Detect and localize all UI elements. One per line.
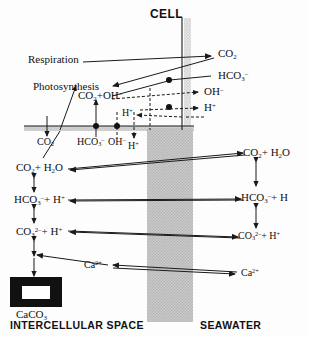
calcium-left: Ca2+ (84, 260, 102, 270)
inner-h-plus: H+ (122, 108, 133, 118)
species-base: HCO (77, 136, 98, 147)
membrane-species-h: H+ (128, 141, 139, 151)
seawater-co3-h: CO32–+ H+ (238, 231, 280, 242)
species-base: Ca (84, 259, 95, 270)
species-sup: + (129, 107, 133, 114)
species-tail2: O (55, 161, 63, 173)
species-tail-sup: + (58, 226, 62, 233)
junction-dot-hco3-membrane (93, 123, 99, 129)
calcium-right: Ca2+ (241, 268, 259, 278)
reaction-sup: – (119, 90, 122, 97)
species-tail-sup: + (277, 230, 281, 237)
reaction-base: CO (78, 89, 93, 101)
cell-species-oh: OH– (204, 86, 223, 97)
species-base: CO (37, 136, 51, 147)
caco3-crystal-block (10, 277, 62, 307)
species-base: H (204, 101, 212, 113)
membrane-species-co2: CO2 (37, 137, 54, 148)
species-tail: + H (271, 191, 288, 203)
species-tail-sup: + (61, 194, 65, 201)
species-sup: 2– (35, 226, 42, 233)
species-base: CO (218, 47, 233, 59)
species-sup: – (220, 86, 223, 93)
intercellular-co2-h2o: CO2+ H2O (16, 162, 63, 174)
junction-dot-oh-membrane (114, 123, 120, 129)
species-sub: 2 (233, 53, 236, 60)
species-base: CO (16, 161, 31, 173)
cell-title: CELL (150, 8, 183, 20)
junction-dot-hco3-cell (166, 77, 172, 83)
species-tail: + H (35, 161, 52, 173)
species-base: CO (238, 230, 252, 241)
region-label-intercellular: INTERCELLULAR SPACE (10, 320, 144, 331)
respiration-label: Respiration (28, 54, 79, 65)
species-base: OH (204, 85, 220, 97)
species-sup: – (101, 136, 104, 143)
species-tail: + H (262, 146, 279, 158)
membrane-species-hco3: HCO3– (77, 137, 104, 148)
species-sup: – (122, 136, 125, 143)
species-base: HCO (14, 193, 37, 205)
membrane-species-oh: OH– (108, 137, 126, 147)
cell-reaction-co2-oh: CO2+OH– (78, 90, 122, 102)
seawater-co2-h2o: CO2+ H2O (243, 147, 290, 159)
species-sup: 2+ (252, 267, 259, 274)
junction-dot-h-cell (166, 104, 172, 110)
species-base: CO (243, 146, 258, 158)
species-base: HCO (218, 69, 241, 81)
species-tail: + H (42, 225, 59, 237)
species-tail: + H (44, 193, 61, 205)
cell-species-hco3: HCO3– (218, 70, 248, 82)
seawater-hco3-h: HCO3–+ H (241, 192, 288, 204)
species-base: CO (16, 225, 31, 237)
caco3-crystal-inner (22, 286, 50, 299)
species-base: HCO (241, 191, 264, 203)
species-tail: + H (261, 230, 276, 241)
species-tail2: O (282, 146, 290, 158)
intercellular-hco3-h: HCO3–+ H+ (14, 194, 65, 206)
species-sup: – (245, 70, 248, 77)
species-sup: 2+ (95, 259, 102, 266)
species-sup: + (212, 102, 216, 109)
species-sup: + (135, 140, 139, 147)
reaction-plus: +OH (97, 89, 119, 101)
intercellular-co3-h: CO32–+ H+ (16, 226, 62, 238)
species-sub: 2 (51, 140, 54, 147)
species-base: Ca (241, 267, 252, 278)
diagram-canvas: CELL Respiration Photosynthesis CO2+OH– … (0, 0, 309, 337)
cell-species-co2: CO2 (218, 48, 237, 60)
species-base: OH (108, 136, 122, 147)
region-label-seawater: SEAWATER (200, 320, 261, 331)
cell-species-h: H+ (204, 102, 216, 113)
